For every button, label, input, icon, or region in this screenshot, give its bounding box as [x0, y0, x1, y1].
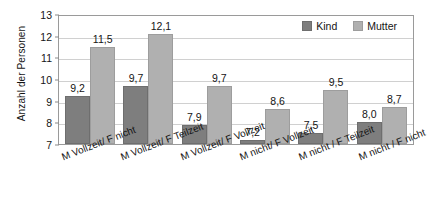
bar-value-label: 8,7 — [387, 94, 402, 105]
bar-slot: 12,1 — [148, 16, 173, 144]
bar-value-label: 9,7 — [129, 73, 144, 84]
y-axis-tick-mark — [55, 58, 59, 59]
y-axis-title: Anzahl der Personen — [16, 9, 27, 139]
bar-value-label: 9,7 — [212, 73, 227, 84]
y-axis-tick-mark — [55, 101, 59, 102]
y-axis-tick-label: 12 — [28, 32, 52, 42]
bars-container: 9,211,59,712,17,99,77,28,67,59,58,08,7 — [59, 16, 413, 144]
bar[interactable] — [65, 96, 90, 144]
bar-value-label: 8,6 — [270, 96, 285, 107]
bar-group: 7,28,6 — [236, 16, 294, 144]
y-axis-tick-labels: 78910111213 — [28, 15, 52, 145]
bar-group: 8,08,7 — [353, 16, 411, 144]
bar-value-label: 12,1 — [151, 21, 171, 32]
legend-swatch-icon — [302, 21, 312, 31]
bar-slot: 11,5 — [90, 16, 115, 144]
plot-area: 9,211,59,712,17,99,77,28,67,59,58,08,7 K… — [58, 15, 414, 145]
bar-slot: 9,7 — [123, 16, 148, 144]
chart-legend: KindMutter — [302, 20, 397, 32]
bar-slot: 9,7 — [207, 16, 232, 144]
bar-value-label: 8,0 — [362, 109, 377, 120]
y-axis-tick-mark — [55, 145, 59, 146]
y-axis-tick-label: 7 — [28, 140, 52, 150]
y-axis-tick-mark — [55, 15, 59, 16]
bar-slot: 9,2 — [65, 16, 90, 144]
y-axis-tick-mark — [55, 36, 59, 37]
y-axis-tick-label: 11 — [28, 53, 52, 63]
y-axis-tick-label: 10 — [28, 75, 52, 85]
bar-value-label: 9,5 — [329, 77, 344, 88]
legend-label: Kind — [316, 20, 337, 32]
bar[interactable] — [90, 47, 115, 145]
x-axis-tick-labels: M Vollzeit/ F nichtM Vollzeit/ F Teilzei… — [58, 146, 414, 215]
y-axis-tick-label: 8 — [28, 118, 52, 128]
legend-item-mutter[interactable]: Mutter — [353, 20, 397, 32]
y-axis-tick-label: 9 — [28, 97, 52, 107]
bar-group: 9,211,5 — [61, 16, 119, 144]
bar-slot: 8,7 — [382, 16, 407, 144]
legend-item-kind[interactable]: Kind — [302, 20, 337, 32]
y-axis-tick-mark — [55, 123, 59, 124]
legend-label: Mutter — [367, 20, 397, 32]
bar[interactable] — [148, 34, 173, 145]
bar-slot: 8,6 — [265, 16, 290, 144]
bar-value-label: 9,2 — [70, 83, 85, 94]
bar-slot: 9,5 — [323, 16, 348, 144]
y-axis-tick-mark — [55, 80, 59, 81]
y-axis-tick-label: 13 — [28, 10, 52, 20]
legend-swatch-icon — [353, 21, 363, 31]
bar-value-label: 11,5 — [93, 34, 113, 45]
bar-group: 7,59,5 — [294, 16, 352, 144]
